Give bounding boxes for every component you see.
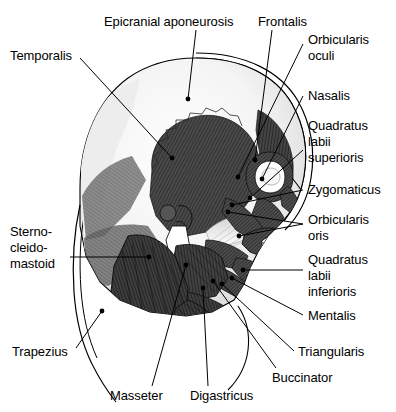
label-orbicularis-oris-line-2: oris xyxy=(308,228,369,244)
leader-dot-frontalis xyxy=(253,158,258,163)
leader-dot-quadratus-labii-superioris xyxy=(248,196,253,201)
label-trapezius: Trapezius xyxy=(12,344,68,360)
anatomy-diagram: TemporalisEpicranial aponeurosisFrontali… xyxy=(0,0,396,412)
label-temporalis-line-1: Temporalis xyxy=(10,48,72,64)
leader-line-buccinator xyxy=(213,281,276,368)
label-sternocleidomastoid-line-1: Sterno- xyxy=(10,224,55,240)
label-triangularis: Triangularis xyxy=(298,344,364,360)
label-nasalis: Nasalis xyxy=(308,88,350,104)
leader-dot-triangularis xyxy=(220,282,225,287)
label-buccinator-line-1: Buccinator xyxy=(272,370,332,386)
label-sternocleidomastoid: Sterno-cleido-mastoid xyxy=(10,224,55,272)
label-digastricus: Digastricus xyxy=(190,388,253,404)
label-nasalis-line-1: Nasalis xyxy=(308,88,350,104)
leader-dot-nasalis xyxy=(260,177,265,182)
label-orbicularis-oculi: Orbicularisoculi xyxy=(308,32,369,64)
label-mentalis-line-1: Mentalis xyxy=(308,308,356,324)
leader-dot-sternocleidomastoid xyxy=(147,255,152,260)
label-frontalis-line-1: Frontalis xyxy=(258,14,307,30)
leader-dot-orbicularis-oris-b xyxy=(237,234,242,239)
label-masseter: Masseter xyxy=(110,388,163,404)
leader-dot-orbicularis-oculi xyxy=(236,175,241,180)
label-quadratus-labii-superioris: Quadratuslabiisuperioris xyxy=(308,118,368,166)
label-trapezius-line-1: Trapezius xyxy=(12,344,68,360)
label-quadratus-labii-inferioris-line-1: Quadratus xyxy=(308,252,368,268)
label-quadratus-labii-superioris-line-1: Quadratus xyxy=(308,118,368,134)
label-zygomaticus-line-1: Zygomaticus xyxy=(308,182,381,198)
label-zygomaticus: Zygomaticus xyxy=(308,182,381,198)
leader-line-triangularis xyxy=(222,284,294,351)
leader-dot-quadratus-labii-inferioris xyxy=(241,268,246,273)
label-epicranial-aponeurosis: Epicranial aponeurosis xyxy=(104,14,233,30)
leader-dot-mentalis xyxy=(230,276,235,281)
label-triangularis-line-1: Triangularis xyxy=(298,344,364,360)
label-sternocleidomastoid-line-2: cleido- xyxy=(10,240,55,256)
label-sternocleidomastoid-line-3: mastoid xyxy=(10,256,55,272)
leader-dot-masseter xyxy=(184,263,189,268)
leader-dot-temporalis xyxy=(170,156,175,161)
leader-line-mentalis xyxy=(232,278,303,315)
label-orbicularis-oris-line-1: Orbicularis xyxy=(308,212,369,228)
label-quadratus-labii-inferioris-line-3: inferioris xyxy=(308,284,368,300)
label-orbicularis-oculi-line-1: Orbicularis xyxy=(308,32,369,48)
label-buccinator: Buccinator xyxy=(272,370,332,386)
label-quadratus-labii-inferioris: Quadratuslabiiinferioris xyxy=(308,252,368,300)
label-quadratus-labii-superioris-line-2: labii xyxy=(308,134,368,150)
label-orbicularis-oris: Orbicularisoris xyxy=(308,212,369,244)
label-mentalis: Mentalis xyxy=(308,308,356,324)
leader-dot-trapezius xyxy=(100,309,105,314)
label-masseter-line-1: Masseter xyxy=(110,388,163,404)
leader-dot-digastricus xyxy=(201,286,206,291)
label-orbicularis-oculi-line-2: oculi xyxy=(308,48,369,64)
label-frontalis: Frontalis xyxy=(258,14,307,30)
leader-dot-epicranial-aponeurosis xyxy=(186,97,191,102)
label-digastricus-line-1: Digastricus xyxy=(190,388,253,404)
label-epicranial-aponeurosis-line-1: Epicranial aponeurosis xyxy=(104,14,233,30)
label-quadratus-labii-inferioris-line-2: labii xyxy=(308,268,368,284)
leader-dot-orbicularis-oris xyxy=(226,210,231,215)
label-temporalis: Temporalis xyxy=(10,48,72,64)
leader-dot-zygomaticus xyxy=(230,203,235,208)
leader-dot-buccinator xyxy=(211,279,216,284)
label-quadratus-labii-superioris-line-3: superioris xyxy=(308,150,368,166)
